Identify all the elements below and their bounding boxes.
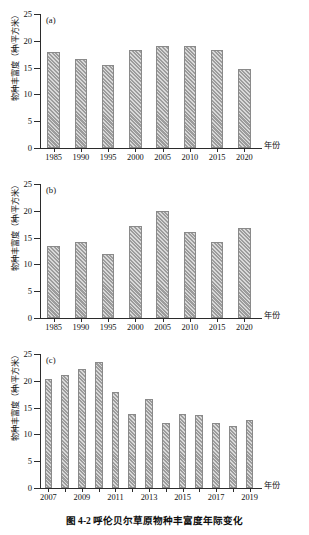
bar [47, 52, 60, 148]
x-tick-mark [132, 488, 133, 492]
bar [162, 423, 170, 488]
y-tick-label: 10 [14, 260, 32, 269]
x-tick-label: 1990 [67, 154, 95, 162]
x-tick-mark [166, 488, 167, 492]
x-tick-label: 2015 [203, 324, 231, 332]
x-tick-label: 2020 [230, 154, 258, 162]
x-tick-label: 2005 [149, 154, 177, 162]
x-tick-label: 2019 [236, 494, 264, 502]
y-tick-mark [34, 461, 40, 462]
bar [47, 246, 60, 318]
x-tick-mark [81, 318, 82, 322]
figure-page: 物种丰富度（种/平方米） (a) 年份 05101520251985199019… [0, 0, 309, 535]
x-tick-mark [183, 488, 184, 492]
y-tick-mark [34, 121, 40, 122]
x-tick-label: 2020 [230, 324, 258, 332]
x-tick-mark [250, 488, 251, 492]
bar [211, 50, 224, 148]
bar [61, 375, 69, 488]
x-tick-label: 2017 [202, 494, 230, 502]
y-tick-label: 15 [14, 404, 32, 413]
y-tick-label: 5 [14, 457, 32, 466]
y-tick-mark [34, 408, 40, 409]
x-tick-mark [54, 318, 55, 322]
x-tick-label: 2000 [121, 154, 149, 162]
bar [156, 211, 169, 318]
x-tick-mark [244, 318, 245, 322]
bar [129, 226, 142, 318]
x-tick-mark [54, 148, 55, 152]
x-tick-mark [149, 488, 150, 492]
y-tick-label: 25 [14, 180, 32, 189]
bar [179, 414, 187, 488]
x-tick-label: 2011 [101, 494, 129, 502]
y-tick-label: 15 [14, 234, 32, 243]
x-axis-title: 年份 [264, 482, 280, 490]
x-tick-label: 1985 [40, 324, 68, 332]
x-tick-mark [135, 148, 136, 152]
y-tick-label: 0 [14, 484, 32, 493]
bar [78, 369, 86, 488]
y-tick-mark [34, 318, 40, 319]
bar [195, 415, 203, 488]
bar [45, 379, 53, 488]
bar [75, 59, 88, 148]
y-tick-label: 15 [14, 64, 32, 73]
x-tick-label: 2010 [176, 154, 204, 162]
x-tick-mark [65, 488, 66, 492]
bar [129, 50, 142, 148]
y-tick-mark [34, 211, 40, 212]
x-tick-mark [163, 318, 164, 322]
y-tick-label: 25 [14, 350, 32, 359]
chart-panel-b: 物种丰富度（种/平方米） (b) 年份 05101520251985199019… [0, 170, 309, 340]
y-tick-mark [34, 41, 40, 42]
plot-area-a [40, 14, 258, 148]
bar [229, 426, 237, 488]
y-tick-mark [34, 148, 40, 149]
y-tick-mark [34, 381, 40, 382]
plot-area-b [40, 184, 258, 318]
y-tick-label: 0 [14, 144, 32, 153]
x-tick-mark [48, 488, 49, 492]
y-tick-label: 10 [14, 90, 32, 99]
x-axis-title: 年份 [264, 142, 280, 150]
y-tick-mark [34, 14, 40, 15]
y-tick-mark [34, 354, 40, 355]
y-tick-mark [34, 488, 40, 489]
y-tick-label: 10 [14, 430, 32, 439]
bar [95, 362, 103, 488]
y-tick-label: 5 [14, 287, 32, 296]
y-tick-mark [34, 94, 40, 95]
chart-panel-c: 物种丰富度（种/平方米） (c) 年份 05101520252007200920… [0, 340, 309, 510]
bar [112, 392, 120, 488]
x-tick-mark [217, 318, 218, 322]
y-tick-label: 0 [14, 314, 32, 323]
x-tick-mark [163, 148, 164, 152]
x-tick-mark [115, 488, 116, 492]
x-tick-mark [108, 148, 109, 152]
x-tick-label: 2010 [176, 324, 204, 332]
x-tick-label: 1995 [94, 324, 122, 332]
y-tick-mark [34, 264, 40, 265]
plot-area-c [40, 354, 258, 488]
x-tick-mark [108, 318, 109, 322]
x-tick-mark [135, 318, 136, 322]
bar [156, 46, 169, 148]
x-tick-mark [199, 488, 200, 492]
x-tick-label: 2007 [34, 494, 62, 502]
x-axis-line [40, 148, 262, 149]
figure-caption: 图 4-2 呼伦贝尔草原物种丰富度年际变化 [0, 515, 309, 526]
bar [75, 242, 88, 318]
bar [238, 228, 251, 318]
bar [246, 420, 254, 488]
x-tick-label: 1990 [67, 324, 95, 332]
x-tick-mark [81, 148, 82, 152]
y-tick-label: 20 [14, 207, 32, 216]
bar [184, 46, 197, 148]
x-tick-label: 2005 [149, 324, 177, 332]
y-tick-label: 20 [14, 37, 32, 46]
y-tick-mark [34, 184, 40, 185]
bar [102, 65, 115, 148]
x-tick-label: 1985 [40, 154, 68, 162]
y-tick-mark [34, 434, 40, 435]
